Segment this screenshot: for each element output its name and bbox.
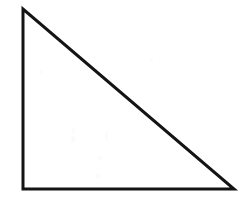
figure-canvas (0, 0, 248, 197)
right-triangle-figure (0, 0, 248, 197)
